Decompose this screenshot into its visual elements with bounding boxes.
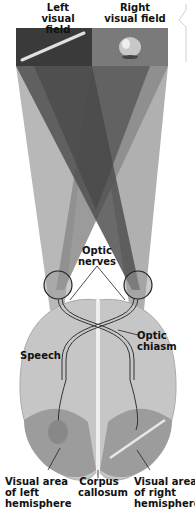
corpus-callosum-label: Corpus callosum [78,476,120,498]
optic-chiasm-label: Optic chiasm [137,330,177,352]
apple-image-left-cortex [48,420,68,444]
speech-label: Speech [20,350,61,361]
left-eye [44,271,72,299]
visual-area-left-label: Visual area of left hemisphere [5,476,71,509]
right-eye [124,271,152,299]
optic-nerves-label: Optic nerves [77,245,117,267]
visual-area-right-label: Visual area of right hemisphere [134,476,195,509]
right-visual-field-label: Right visual field [100,2,170,24]
speech-bubble-edge [179,4,186,62]
corpus-callosum [96,300,100,475]
left-visual-field-label: Left visual field [28,2,88,35]
